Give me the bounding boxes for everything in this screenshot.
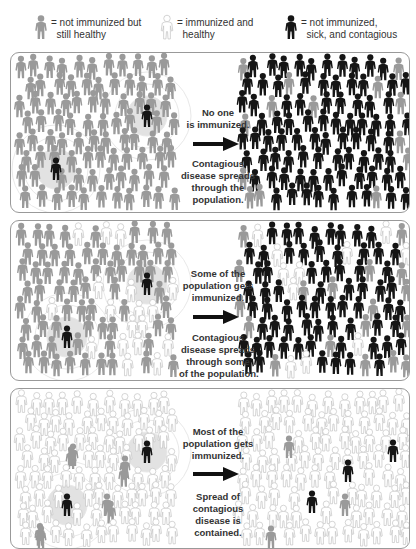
immunized-person-icon: [364, 502, 375, 525]
unimmunized-person-icon: [159, 53, 170, 75]
unimmunized-person-icon: [394, 131, 405, 154]
unimmunized-person-icon: [371, 186, 382, 209]
sick-person-icon: [306, 58, 317, 81]
sick-person-icon: [365, 54, 376, 77]
unimmunized-person-icon: [52, 187, 63, 210]
unimmunized-person-icon: [44, 224, 55, 247]
immunized-person-icon: [295, 468, 306, 491]
immunized-person-icon: [401, 242, 410, 265]
unimmunized-person-icon: [35, 15, 47, 39]
sick-person-icon: [287, 183, 298, 206]
unimmunized-person-icon: [168, 354, 179, 377]
immunized-person-icon: [393, 389, 404, 411]
unimmunized-person-icon: [112, 186, 123, 209]
legend-label: = immunized and healthy: [177, 17, 253, 40]
unimmunized-person-icon: [22, 281, 33, 304]
sick-person-icon: [373, 147, 384, 170]
sick-person-icon: [282, 299, 293, 322]
sick-person-icon: [346, 185, 357, 208]
sick-person-icon: [345, 317, 356, 340]
immunized-person-icon: [104, 467, 115, 490]
immunized-person-icon: [101, 222, 112, 245]
immunized-person-icon: [161, 15, 173, 39]
unimmunized-person-icon: [15, 296, 26, 319]
sick-person-icon: [295, 93, 306, 116]
immunized-person-icon: [75, 428, 86, 451]
caption-bottom: Contagious disease spreads through the p…: [179, 158, 257, 206]
sick-person-icon: [271, 188, 282, 211]
immunized-person-icon: [122, 353, 133, 376]
unimmunized-person-icon: [49, 244, 60, 267]
unimmunized-person-icon: [401, 355, 410, 378]
unimmunized-person-icon: [28, 54, 39, 77]
sick-person-icon: [317, 350, 328, 373]
caption-top: Some of the population gets immunized.: [179, 268, 257, 304]
unimmunized-person-icon: [153, 242, 164, 265]
sick-person-icon: [366, 226, 377, 249]
immunized-person-icon: [350, 431, 361, 454]
sick-person-icon: [328, 188, 339, 211]
immunized-person-icon: [343, 519, 354, 542]
unimmunized-person-icon: [53, 109, 64, 132]
sick-person-icon: [402, 113, 410, 136]
sick-person-icon: [358, 74, 369, 97]
immunized-person-icon: [328, 481, 339, 504]
unimmunized-person-icon: [119, 128, 130, 151]
sick-person-icon: [257, 73, 268, 96]
unimmunized-person-icon: [97, 242, 108, 265]
sick-person-icon: [353, 296, 364, 319]
immunized-person-icon: [115, 224, 126, 247]
sick-person-icon: [372, 313, 383, 336]
unimmunized-person-icon: [340, 493, 351, 516]
sick-person-icon: [343, 147, 354, 170]
immunized-person-icon: [256, 486, 267, 509]
panel-most-immunization: Most of the population gets immunized. S…: [10, 388, 410, 549]
immunized-person-icon: [351, 505, 362, 528]
sick-person-icon: [258, 148, 269, 171]
sick-person-icon: [386, 186, 397, 209]
immunized-person-icon: [96, 408, 107, 431]
immunized-person-icon: [371, 485, 382, 508]
immunized-person-icon: [95, 445, 106, 468]
unimmunized-person-icon: [129, 221, 140, 243]
caption-top: No one is immunized.: [179, 107, 257, 131]
immunized-person-icon: [73, 223, 84, 246]
gray-person-icon: [34, 14, 48, 40]
sick-person-icon: [390, 243, 401, 266]
immunized-person-icon: [272, 244, 283, 267]
immunized-person-icon: [356, 484, 367, 507]
immunized-person-icon: [72, 391, 83, 414]
sick-person-icon: [313, 146, 324, 169]
unimmunized-person-icon: [153, 186, 164, 209]
immunized-person-icon: [382, 503, 393, 526]
unimmunized-person-icon: [395, 92, 406, 115]
immunized-person-icon: [141, 523, 152, 546]
arrow-right-icon: [193, 310, 239, 324]
unimmunized-person-icon: [74, 55, 85, 78]
panel-some-immunization: Some of the population gets immunized. C…: [10, 220, 410, 381]
sick-person-icon: [325, 296, 336, 319]
unimmunized-person-icon: [37, 184, 48, 207]
immunized-person-icon: [381, 221, 392, 243]
sick-person-icon: [313, 319, 324, 342]
sick-person-icon: [278, 336, 289, 359]
arrow-right-icon: [193, 137, 239, 151]
immunized-person-icon: [383, 464, 394, 487]
unimmunized-person-icon: [14, 95, 25, 118]
sick-person-icon: [323, 168, 334, 191]
immunized-person-icon: [352, 333, 363, 356]
sick-person-icon: [383, 297, 394, 320]
caption-top: Most of the population gets immunized.: [179, 426, 257, 462]
unimmunized-person-icon: [96, 185, 107, 208]
sick-person-icon: [320, 132, 331, 155]
immunized-person-icon: [301, 351, 312, 374]
unimmunized-person-icon: [266, 525, 277, 548]
immunized-person-icon: [117, 333, 128, 356]
unimmunized-person-icon: [32, 223, 43, 246]
immunized-person-icon: [14, 428, 25, 451]
immunized-person-icon: [315, 522, 326, 545]
unimmunized-person-icon: [45, 92, 56, 115]
unimmunized-person-icon: [96, 352, 107, 375]
sick-person-icon: [352, 224, 363, 247]
sick-person-icon: [318, 109, 329, 132]
